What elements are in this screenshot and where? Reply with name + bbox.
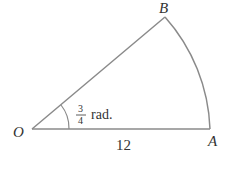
angle-denominator: 4 <box>78 115 83 126</box>
angle-arc <box>61 105 69 129</box>
label-B: B <box>159 0 168 16</box>
label-A: A <box>207 133 218 149</box>
radius-length-label: 12 <box>116 137 131 153</box>
angle-numerator: 3 <box>78 103 83 114</box>
arc-AB <box>165 17 210 129</box>
sector-diagram: O A B 12 3 4 rad. <box>0 0 237 174</box>
angle-unit: rad. <box>91 107 112 122</box>
label-O: O <box>13 124 24 140</box>
